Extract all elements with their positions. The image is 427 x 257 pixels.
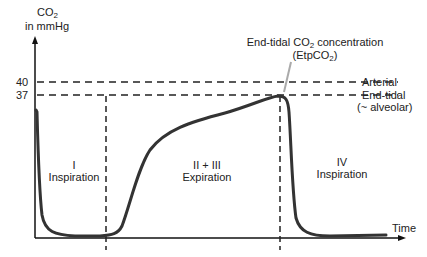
annotation-abbr-b: ) [334, 49, 338, 61]
tick-37: 37 [16, 89, 28, 101]
annotation-line-1: End-tidal CO2 concentration [240, 36, 390, 48]
y-axis-label-sub: 2 [54, 11, 58, 20]
annotation-text-b: concentration [314, 36, 383, 48]
annotation-line-2: (EtpCO2) [240, 49, 390, 61]
phase-2-name: Expiration [172, 171, 242, 183]
y-axis-arrow-icon [32, 36, 38, 44]
y-axis-unit: in mmHg [25, 20, 69, 32]
phase-1-label: I Inspiration [44, 159, 104, 183]
y-axis-label-main: CO [37, 6, 54, 18]
arterial-label: Arterial [362, 76, 397, 88]
phase-3-name: Inspiration [312, 168, 372, 180]
phase-2-label: II + III Expiration [172, 159, 242, 183]
phase-1-name: Inspiration [44, 171, 104, 183]
phase-3-numeral: IV [312, 156, 372, 168]
end-tidal-label: End-tidal [362, 89, 405, 101]
alveolar-label: (~ alveolar) [357, 101, 412, 113]
phase-2-numeral: II + III [172, 159, 242, 171]
end-tidal-annotation: End-tidal CO2 concentration (EtpCO2) [240, 36, 390, 61]
tick-40: 40 [16, 76, 28, 88]
x-axis-label: Time [392, 222, 416, 234]
annotation-pointer [284, 62, 291, 92]
x-axis-arrow-icon [398, 235, 406, 241]
y-axis-label: CO2 [37, 6, 58, 18]
phase-3-label: IV Inspiration [312, 156, 372, 180]
annotation-abbr-a: (EtpCO [293, 49, 330, 61]
phase-1-numeral: I [44, 159, 104, 171]
annotation-text-a: End-tidal CO [247, 36, 310, 48]
